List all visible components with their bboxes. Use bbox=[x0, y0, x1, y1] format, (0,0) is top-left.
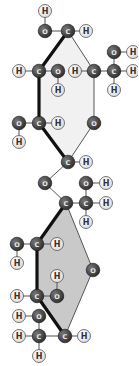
carbon-atom: C bbox=[32, 329, 46, 343]
atom-label: C bbox=[37, 68, 42, 76]
atom-label: O bbox=[42, 180, 48, 188]
hydrogen-atom: H bbox=[51, 270, 64, 283]
carbon-atom: C bbox=[87, 64, 101, 78]
carbon-atom: C bbox=[61, 155, 75, 169]
oxygen-atom: O bbox=[12, 116, 26, 130]
atom-label: H bbox=[36, 352, 43, 361]
oxygen-atom: O bbox=[86, 263, 100, 277]
hydrogen-atom: H bbox=[80, 216, 93, 229]
atom-label: H bbox=[14, 259, 21, 268]
atom-label: O bbox=[90, 267, 96, 275]
carbon-atom: C bbox=[32, 116, 46, 130]
atom-label: O bbox=[36, 313, 42, 321]
hydrogen-atom: H bbox=[39, 5, 52, 18]
hydrogen-atom: H bbox=[80, 25, 93, 38]
atom-label: C bbox=[66, 159, 71, 167]
hydrogen-atom: H bbox=[13, 65, 26, 78]
atom-label: H bbox=[72, 67, 79, 76]
carbon-atom: C bbox=[30, 289, 44, 303]
atom-label: H bbox=[103, 199, 110, 208]
oxygen-atom: O bbox=[87, 116, 101, 130]
molecule-svg: HOCHHCOHHCCHOHHOCHHOCHOOHCCHHOCHHOHHCOHO… bbox=[0, 0, 138, 366]
atom-label: H bbox=[83, 218, 90, 227]
atom-label: H bbox=[81, 332, 88, 341]
hydrogen-atom: H bbox=[69, 65, 82, 78]
carbon-atom: C bbox=[79, 196, 93, 210]
oxygen-atom: O bbox=[38, 176, 52, 190]
atom-label: H bbox=[130, 48, 137, 57]
hydrogen-atom: H bbox=[13, 310, 26, 323]
atom-label: H bbox=[16, 312, 23, 321]
oxygen-atom: O bbox=[32, 309, 46, 323]
oxygen-atom: O bbox=[107, 45, 121, 59]
atom-label: C bbox=[112, 68, 117, 76]
atom-label: C bbox=[37, 333, 42, 341]
hydrogen-atom: H bbox=[33, 350, 46, 363]
hydrogen-atom: H bbox=[52, 84, 65, 97]
hydrogen-atom: H bbox=[108, 84, 121, 97]
top-ring bbox=[39, 31, 94, 162]
hydrogen-atom: H bbox=[100, 177, 113, 190]
atom-label: C bbox=[35, 241, 40, 249]
hydrogen-atom: H bbox=[80, 156, 93, 169]
hydrogen-atom: H bbox=[13, 330, 26, 343]
hydrogen-atom: H bbox=[11, 257, 24, 270]
oxygen-atom: O bbox=[79, 176, 93, 190]
atom-label: H bbox=[103, 179, 110, 188]
atom-label: O bbox=[83, 180, 89, 188]
atom-label: H bbox=[54, 240, 61, 249]
carbon-atom: C bbox=[59, 196, 73, 210]
atom-label: C bbox=[37, 120, 42, 128]
oxygen-atom: O bbox=[50, 289, 64, 303]
atom-label: H bbox=[14, 292, 21, 301]
atom-label: O bbox=[55, 68, 61, 76]
hydrogen-atom: H bbox=[78, 330, 91, 343]
hydrogen-atom: H bbox=[52, 117, 65, 130]
atom-label: O bbox=[54, 293, 60, 301]
carbon-atom: C bbox=[107, 64, 121, 78]
oxygen-atom: O bbox=[38, 24, 52, 38]
atom-label: H bbox=[55, 86, 62, 95]
atom-label: C bbox=[84, 200, 89, 208]
atom-label: H bbox=[16, 67, 23, 76]
atom-label: O bbox=[111, 49, 117, 57]
carbon-atom: C bbox=[32, 64, 46, 78]
carbon-atom: C bbox=[30, 237, 44, 251]
oxygen-atom: O bbox=[10, 237, 24, 251]
atom-label: O bbox=[16, 120, 22, 128]
atom-label: C bbox=[66, 28, 71, 36]
atom-label: H bbox=[55, 119, 62, 128]
molecule-diagram: HOCHHCOHHCCHOHHOCHHOCHOOHCCHHOCHHOHHCOHO… bbox=[0, 0, 138, 366]
atom-label: H bbox=[111, 86, 118, 95]
atom-label: H bbox=[83, 158, 90, 167]
atom-label: H bbox=[83, 27, 90, 36]
hydrogen-atom: H bbox=[51, 238, 64, 251]
atom-label: C bbox=[92, 68, 97, 76]
atom-label: O bbox=[42, 28, 48, 36]
atom-label: O bbox=[91, 120, 97, 128]
atom-label: O bbox=[14, 241, 20, 249]
atom-label: C bbox=[63, 333, 68, 341]
atom-label: H bbox=[130, 67, 137, 76]
carbon-atom: C bbox=[61, 24, 75, 38]
hydrogen-atom: H bbox=[13, 136, 26, 149]
hydrogen-atom: H bbox=[127, 65, 139, 78]
atom-label: C bbox=[35, 293, 40, 301]
oxygen-atom: O bbox=[51, 64, 65, 78]
atom-label: C bbox=[64, 200, 69, 208]
atom-label: H bbox=[54, 272, 61, 281]
carbon-atom: C bbox=[58, 329, 72, 343]
hydrogen-atom: H bbox=[100, 197, 113, 210]
atom-label: H bbox=[16, 138, 23, 147]
atom-label: H bbox=[42, 7, 49, 16]
hydrogen-atom: H bbox=[11, 290, 24, 303]
atom-label: H bbox=[16, 332, 23, 341]
hydrogen-atom: H bbox=[127, 46, 139, 59]
